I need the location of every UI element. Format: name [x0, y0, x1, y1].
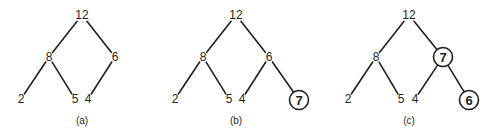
- tree-edge: [272, 62, 293, 92]
- tree-node: 8: [46, 50, 53, 64]
- tree-node: 2: [345, 92, 352, 106]
- tree-node: 12: [402, 8, 416, 22]
- tree-edge: [380, 21, 404, 52]
- tree-edge: [206, 62, 226, 94]
- highlighted-node: 6: [460, 91, 479, 110]
- node-label: 8: [200, 50, 207, 64]
- panel-caption: (a): [76, 115, 88, 126]
- tree-edge: [24, 62, 45, 94]
- tree-node: 5: [72, 92, 79, 106]
- node-label: 12: [402, 8, 416, 22]
- node-label: 5: [226, 92, 233, 106]
- panel-caption: (c): [403, 115, 415, 126]
- highlighted-node: 7: [434, 48, 453, 67]
- tree-node: 12: [75, 8, 89, 22]
- tree-node: 2: [18, 92, 25, 106]
- node-label: 4: [239, 92, 246, 106]
- tree-edge: [379, 62, 398, 94]
- tree-edge: [245, 62, 266, 94]
- tree-node: 12: [229, 8, 243, 22]
- node-label: 8: [373, 50, 380, 64]
- tree-node: 5: [226, 92, 233, 106]
- node-label: 2: [345, 92, 352, 106]
- tree-edge: [178, 62, 199, 94]
- node-label: 7: [439, 50, 446, 65]
- panel-a: 1286254(a): [18, 8, 119, 126]
- tree-edge: [52, 62, 72, 94]
- tree-edge: [91, 62, 112, 94]
- tree-node: 8: [373, 50, 380, 64]
- node-label: 8: [46, 50, 53, 64]
- panel-caption: (b): [230, 115, 242, 126]
- tree-edge: [418, 65, 437, 94]
- node-label: 12: [75, 8, 89, 22]
- tree-node: 4: [239, 92, 246, 106]
- panel-b: 12862547(b): [172, 8, 309, 126]
- heap-insertion-diagram: 1286254(a) 12862547(b) 12872546(c): [0, 0, 498, 134]
- highlighted-node: 7: [290, 91, 309, 110]
- tree-edge: [351, 62, 372, 94]
- node-label: 2: [18, 92, 25, 106]
- tree-node: 5: [398, 92, 405, 106]
- node-label: 6: [112, 50, 119, 64]
- node-label: 4: [85, 92, 92, 106]
- tree-edge: [87, 21, 111, 52]
- node-label: 2: [172, 92, 179, 106]
- node-label: 6: [465, 93, 472, 108]
- panel-c: 12872546(c): [345, 8, 479, 126]
- tree-edge: [414, 21, 437, 49]
- tree-edge: [207, 21, 231, 52]
- node-label: 5: [72, 92, 79, 106]
- tree-edge: [241, 21, 265, 52]
- tree-node: 4: [85, 92, 92, 106]
- node-label: 4: [412, 92, 419, 106]
- tree-edge: [53, 21, 77, 52]
- node-label: 5: [398, 92, 405, 106]
- tree-node: 6: [112, 50, 119, 64]
- tree-node: 8: [200, 50, 207, 64]
- tree-node: 4: [412, 92, 419, 106]
- tree-node: 2: [172, 92, 179, 106]
- node-label: 12: [229, 8, 243, 22]
- node-label: 7: [295, 93, 302, 108]
- tree-edge: [448, 66, 464, 92]
- node-label: 6: [266, 50, 273, 64]
- tree-node: 6: [266, 50, 273, 64]
